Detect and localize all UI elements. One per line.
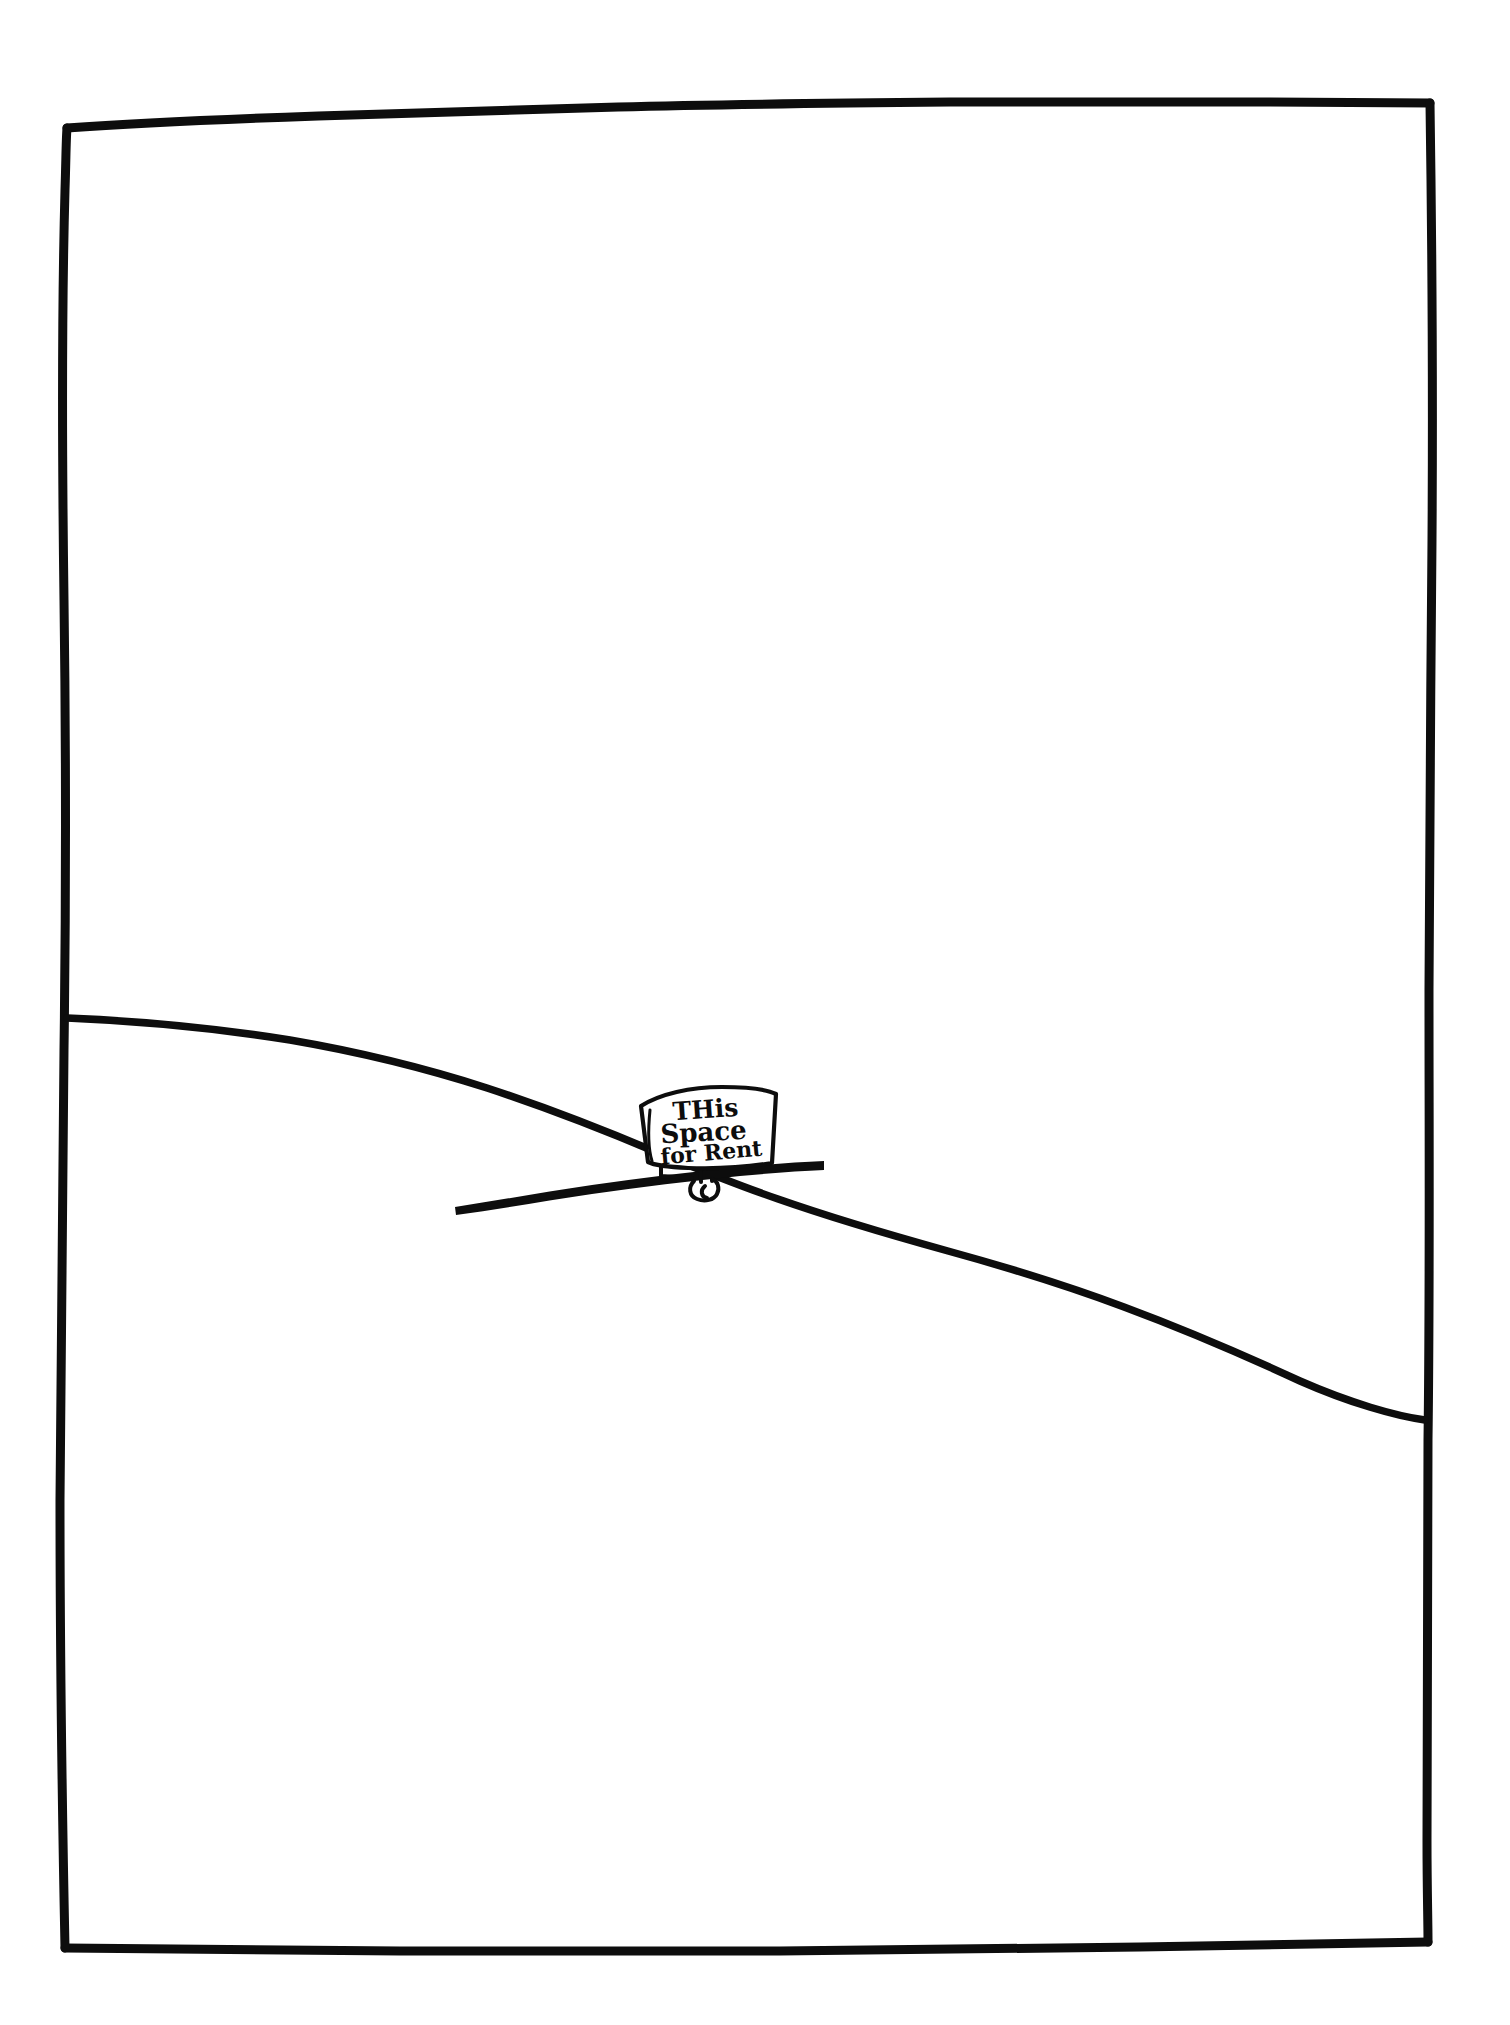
border-bottom-edge [65,1942,1428,1952]
sign-post-base-foot [702,1186,707,1198]
border-left-edge [60,128,67,1948]
border-right-edge [1427,103,1433,1942]
horizon-stroke [67,1018,1425,1420]
ridge-stroke [455,1161,824,1215]
border-top-edge [67,101,1430,128]
cartoon-canvas: THis Space for Rent [0,0,1510,2025]
sign-board[interactable]: THis Space for Rent [641,1087,776,1169]
horizon-line [67,1018,1425,1420]
cartoon-page: This Space For Rent THis Space for Rent [0,0,1510,2025]
ridge-line [455,1161,824,1215]
drawing-border [60,101,1432,1952]
